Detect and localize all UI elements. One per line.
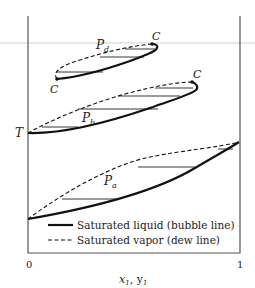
critical-point-pd-low: [55, 77, 59, 81]
curve-pd: Pd C C: [50, 30, 161, 96]
y-axis-label: T: [15, 126, 24, 140]
pa-label: Pa: [103, 174, 117, 190]
legend-label-dew: Saturated vapor (dew line): [77, 234, 220, 246]
pd-label: Pd: [95, 38, 109, 54]
bubble-line-pa: [28, 142, 239, 219]
critical-label-pb: C: [193, 68, 202, 81]
x-tick-1: 1: [237, 259, 243, 270]
x-axis-label: x1, y1: [119, 273, 147, 287]
plot-frame: [28, 16, 240, 253]
legend: Saturated liquid (bubble line) Saturated…: [48, 219, 235, 246]
critical-label-pd-high: C: [152, 30, 161, 43]
curve-pb: Pb C: [28, 68, 202, 133]
phase-diagram: Pa Pb C Pd C C T 0 1 x1, y1: [0, 0, 255, 288]
pb-label: Pb: [81, 111, 95, 127]
curve-pa: Pa: [28, 142, 239, 219]
critical-label-pd-low: C: [50, 83, 59, 96]
dew-line-pa: [28, 142, 239, 219]
legend-label-bubble: Saturated liquid (bubble line): [77, 219, 235, 231]
x-tick-0: 0: [26, 259, 32, 270]
